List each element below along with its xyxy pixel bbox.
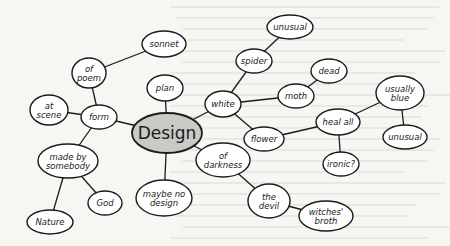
- node-label: broth: [315, 216, 338, 226]
- node-label: form: [89, 112, 109, 122]
- node-label: Nature: [35, 217, 64, 227]
- node-label: dead: [318, 66, 340, 76]
- node-nature: Nature: [27, 210, 73, 234]
- node-label: somebody: [46, 161, 91, 171]
- node-label: scene: [37, 110, 62, 120]
- node-plan: plan: [147, 75, 183, 101]
- node-label: white: [211, 99, 234, 109]
- node-moth: moth: [278, 84, 314, 108]
- node-unusual-top: unusual: [267, 15, 313, 39]
- node-flower: flower: [244, 127, 284, 151]
- node-spider: spider: [236, 49, 272, 73]
- node-label: Design: [138, 123, 197, 143]
- node-of-poem: ofpoem: [72, 58, 106, 88]
- node-label: spider: [241, 56, 268, 66]
- node-label: design: [150, 198, 178, 208]
- node-maybe-no-design: maybe nodesign: [136, 180, 192, 216]
- node-heal-all: heal all: [316, 109, 360, 135]
- node-at-scene: atscene: [30, 95, 68, 125]
- node-label: poem: [76, 73, 101, 83]
- mind-map-design: Designplanformofpoemsonnetatscenemade by…: [0, 0, 450, 246]
- node-unusual-right: unusual: [383, 125, 427, 149]
- node-dead: dead: [311, 59, 347, 83]
- node-ironic: ironic?: [323, 152, 359, 176]
- node-label: blue: [391, 93, 409, 103]
- node-the-devil: thedevil: [248, 184, 290, 218]
- node-label: heal all: [323, 117, 354, 127]
- node-label: devil: [259, 201, 280, 211]
- node-usually-blue: usuallyblue: [376, 76, 424, 110]
- node-label: ironic?: [327, 159, 355, 169]
- node-label: unusual: [273, 22, 307, 32]
- node-label: unusual: [388, 132, 422, 142]
- node-label: flower: [251, 134, 278, 144]
- node-label: sonnet: [150, 39, 180, 49]
- node-god: God: [88, 191, 122, 215]
- node-label: plan: [155, 83, 174, 93]
- node-of-darkness: ofdarkness: [196, 143, 250, 177]
- node-white: white: [205, 91, 241, 117]
- node-witches-broth: witches'broth: [299, 201, 353, 231]
- node-sonnet: sonnet: [142, 31, 186, 57]
- node-made-by-somebody: made bysomebody: [38, 144, 98, 178]
- node-label: moth: [285, 91, 307, 101]
- concept-nodes: Designplanformofpoemsonnetatscenemade by…: [27, 15, 427, 234]
- node-label: God: [96, 198, 114, 208]
- node-design: Design: [132, 113, 202, 153]
- node-form: form: [81, 105, 117, 129]
- node-label: darkness: [204, 160, 243, 170]
